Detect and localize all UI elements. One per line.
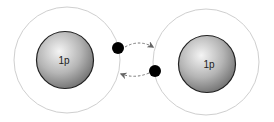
right-electron — [149, 65, 161, 77]
left-nucleus-label: 1p — [58, 55, 70, 66]
right-nucleus-label: 1p — [203, 59, 215, 70]
arrow-left-to-right — [125, 43, 153, 47]
arrow-right-to-left — [121, 73, 149, 76]
covalent-bond-diagram: 1p 1p — [0, 0, 274, 122]
left-electron — [112, 42, 124, 54]
left-atom: 1p — [14, 7, 120, 113]
right-atom: 1p — [153, 9, 259, 115]
